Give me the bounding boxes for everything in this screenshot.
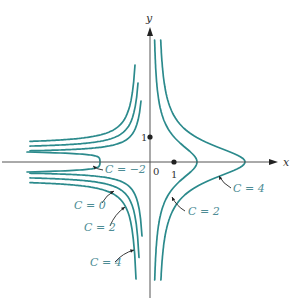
curve-label: C = 0 bbox=[74, 199, 106, 212]
curve-label: C = 4 bbox=[90, 256, 122, 269]
curve-label: C = 2 bbox=[188, 205, 220, 218]
origin-label: 0 bbox=[153, 166, 159, 177]
y-tick-point bbox=[147, 134, 152, 139]
level-curves bbox=[27, 40, 245, 280]
level-curves-diagram: x y 0 1 1 C = −2C = 0C = 2C = 4C = 2C = … bbox=[0, 0, 301, 303]
curve-label: C = 2 bbox=[84, 221, 116, 234]
x-axis-label: x bbox=[283, 156, 290, 169]
x-axis-arrow-icon bbox=[269, 159, 278, 165]
x-tick-point bbox=[171, 159, 176, 164]
y-tick-label-1: 1 bbox=[141, 132, 147, 143]
curve-upper-left-c2 bbox=[30, 83, 138, 146]
curve-label: C = 4 bbox=[233, 182, 265, 195]
x-tick-label-1: 1 bbox=[171, 169, 177, 180]
curve-labels: C = −2C = 0C = 2C = 4C = 2C = 4 bbox=[74, 163, 265, 269]
curve-right-c2 bbox=[155, 40, 197, 280]
y-axis-arrow-icon bbox=[147, 27, 153, 36]
y-axis-label: y bbox=[145, 12, 153, 25]
curve-upper-left-c4 bbox=[30, 65, 135, 141]
curve-label: C = −2 bbox=[105, 163, 146, 176]
curve-lower-left-c2 bbox=[30, 178, 139, 258]
